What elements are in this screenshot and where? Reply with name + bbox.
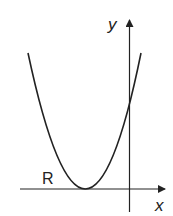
x-axis-label: x <box>154 196 164 215</box>
region-label: R <box>42 170 54 187</box>
y-axis-label: y <box>107 15 118 34</box>
parabola-diagram: y x R <box>0 0 173 216</box>
parabola-curve <box>28 53 141 189</box>
